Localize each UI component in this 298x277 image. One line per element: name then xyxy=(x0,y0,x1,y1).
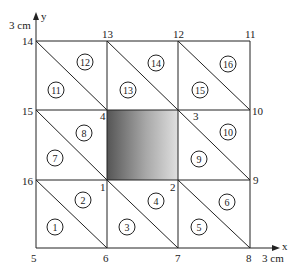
node-label: 8 xyxy=(246,252,252,264)
element-label: 11 xyxy=(51,85,61,96)
x-extent-label: 3 cm xyxy=(262,252,284,264)
node-label: 2 xyxy=(170,181,176,193)
node-label: 3 xyxy=(193,110,199,122)
node-label: 6 xyxy=(103,252,109,264)
element-label: 16 xyxy=(223,59,233,70)
element-label: 12 xyxy=(80,57,90,68)
node-label: 11 xyxy=(245,28,256,40)
node-label: 5 xyxy=(31,252,37,264)
element-label: 8 xyxy=(82,128,87,139)
node-label: 16 xyxy=(22,175,34,187)
y-axis-arrow-icon xyxy=(33,12,39,20)
node-label: 13 xyxy=(102,28,114,40)
y-extent-label: 3 cm xyxy=(9,19,31,31)
x-axis-arrow-icon xyxy=(272,245,280,251)
node-label: 4 xyxy=(100,110,106,122)
node-label: 9 xyxy=(253,174,259,186)
node-label: 7 xyxy=(175,252,181,264)
y-axis-label: y xyxy=(41,10,47,22)
element-label: 6 xyxy=(225,197,230,208)
node-label: 1 xyxy=(100,181,106,193)
element-label: 2 xyxy=(81,195,86,206)
shaded-region xyxy=(107,110,178,180)
element-label: 4 xyxy=(154,196,159,207)
element-label: 5 xyxy=(197,222,202,233)
element-label: 1 xyxy=(53,222,58,233)
element-label: 7 xyxy=(53,153,58,164)
element-label: 10 xyxy=(223,127,233,138)
node-label: 12 xyxy=(173,28,184,40)
node-label: 10 xyxy=(252,105,264,117)
element-label: 15 xyxy=(195,85,205,96)
node-label: 15 xyxy=(22,105,34,117)
fem-mesh-diagram: y x 3 cm 3 cm 1 2 3 4 5 6 7 8 9 10 11 12… xyxy=(0,0,298,277)
element-label: 3 xyxy=(125,222,130,233)
node-label: 14 xyxy=(22,35,34,47)
element-label: 14 xyxy=(151,58,161,69)
x-axis-label: x xyxy=(282,240,288,252)
element-label: 13 xyxy=(123,85,133,96)
element-label: 9 xyxy=(197,154,202,165)
